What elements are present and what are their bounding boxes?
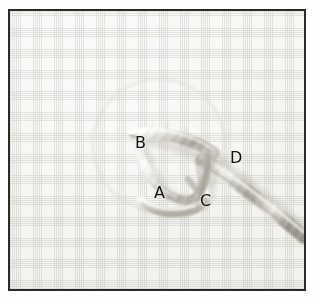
point-label-c: C <box>200 193 211 209</box>
photo-frame: A B C D <box>8 9 306 291</box>
cord-knot-illustration <box>10 11 304 289</box>
cord-tail <box>201 157 304 242</box>
point-label-a: A <box>154 185 165 201</box>
stitch-photograph-figure: A B C D <box>0 0 316 301</box>
point-label-b: B <box>135 135 146 151</box>
point-label-d: D <box>230 150 242 166</box>
